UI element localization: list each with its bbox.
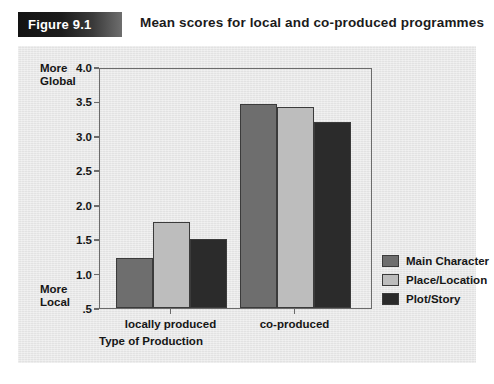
y-axis-tick-label: 1.0 [76,269,92,281]
x-axis-tick-label: locally produced [125,318,216,330]
figure-caption: Mean scores for local and co-produced pr… [140,15,484,30]
bar [277,107,314,308]
y-anno-bottom-line2: Local [40,296,70,309]
y-axis-tick-label: 3.5 [76,96,92,108]
legend-item: Place/Location [382,271,489,288]
y-anno-top-line1: More [40,62,76,75]
bar [240,104,277,309]
y-axis-tick-label: 2.0 [76,200,92,212]
bar [190,239,227,308]
x-axis-tick-mark [294,309,296,314]
legend-swatch [382,293,399,305]
bar [116,258,153,308]
legend-swatch [382,255,399,267]
figure-number-label: Figure 9.1 [18,17,91,32]
bar-layer [100,69,371,308]
legend-label: Plot/Story [406,293,460,305]
plot-area [99,68,372,309]
x-axis-title: Type of Production [99,335,203,347]
bar [153,222,190,308]
figure-header: Figure 9.1 Mean scores for local and co-… [0,12,494,38]
legend-label: Main Character [406,255,489,267]
legend-item: Plot/Story [382,290,489,307]
y-axis-tick-label: 2.5 [76,165,92,177]
figure-root: Figure 9.1 Mean scores for local and co-… [0,0,494,384]
chart-panel: More Global More Local 4.03.53.02.52.01.… [18,46,476,363]
bar [314,122,351,308]
y-axis-tick-label: 4.0 [76,62,92,74]
legend-item: Main Character [382,252,489,269]
y-anno-top-line2: Global [40,75,76,88]
legend-swatch [382,274,399,286]
y-axis-tick-label: 3.0 [76,131,92,143]
x-axis-tick-mark [170,309,172,314]
y-axis-tick-label: .5 [82,303,92,315]
figure-number-badge: Figure 9.1 [18,12,122,37]
legend-label: Place/Location [406,274,487,286]
y-axis-annotation-top: More Global [40,62,76,88]
chart-legend: Main CharacterPlace/LocationPlot/Story [382,252,489,309]
y-axis-tick-label: 1.5 [76,234,92,246]
x-axis-tick-label: co-produced [260,318,330,330]
y-axis-annotation-bottom: More Local [40,283,70,309]
y-anno-bottom-line1: More [40,283,70,296]
